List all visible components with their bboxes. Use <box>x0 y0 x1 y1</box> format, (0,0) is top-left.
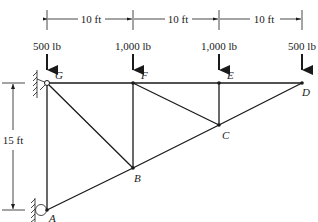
vertical-dimension <box>2 83 25 210</box>
load-label-d: 500 lb <box>288 40 316 52</box>
member-gb <box>47 83 133 168</box>
load-label-e: 1,000 lb <box>201 40 238 52</box>
node-label-e: E <box>226 69 234 81</box>
dimension-label-ed: 10 ft <box>254 13 274 25</box>
load-label-g: 500 lb <box>33 40 61 52</box>
dimension-label-gf: 10 ft <box>81 13 101 25</box>
node-label-g: G <box>55 69 63 81</box>
truss-members <box>47 83 302 210</box>
member-cd <box>219 83 302 125</box>
dimension-label-ga: 15 ft <box>3 134 23 146</box>
load-arrows <box>47 54 302 70</box>
truss-diagram: 10 ft 10 ft 10 ft 15 ft <box>0 0 318 222</box>
member-fc <box>133 83 219 125</box>
member-bc <box>133 125 219 168</box>
node-label-a: A <box>48 212 56 222</box>
node-label-c: C <box>222 129 230 141</box>
node-label-d: D <box>301 86 310 98</box>
node-label-f: F <box>140 69 148 81</box>
node-label-b: B <box>134 172 141 184</box>
wall-support-a <box>31 198 47 222</box>
member-ab <box>47 168 133 210</box>
dimension-label-fe: 10 ft <box>168 13 188 25</box>
load-label-f: 1,000 lb <box>115 40 152 52</box>
